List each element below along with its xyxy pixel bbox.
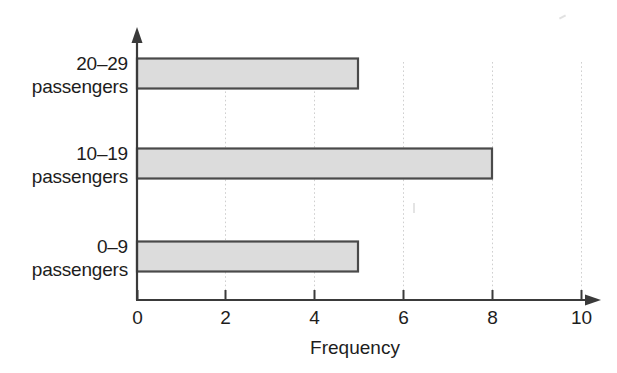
category-label-0-9: 0–9 passengers (0, 235, 128, 281)
category-label-10-19: 10–19 passengers (0, 142, 128, 188)
category-range-10-19: 10–19 (0, 142, 128, 165)
xtick-label-10: 10 (561, 308, 602, 328)
category-label-20-29: 20–29 passengers (0, 52, 128, 98)
category-unit-20-29: passengers (0, 75, 128, 98)
x-axis-ticks (138, 290, 582, 300)
xtick-label-0: 0 (117, 308, 158, 328)
bar-10-19 (137, 149, 492, 179)
bar-0-9 (137, 242, 358, 272)
xtick-label-4: 4 (294, 308, 335, 328)
category-range-0-9: 0–9 (0, 235, 128, 258)
category-unit-10-19: passengers (0, 165, 128, 188)
bar-20-29 (137, 59, 358, 89)
x-axis (136, 295, 601, 306)
xtick-label-8: 8 (472, 308, 513, 328)
xtick-label-6: 6 (383, 308, 424, 328)
frequency-bar-chart: 20–29 passengers 10–19 passengers 0–9 pa… (0, 0, 617, 373)
x-axis-arrowhead (585, 295, 601, 306)
y-axis-arrowhead (132, 27, 143, 43)
xtick-label-2: 2 (205, 308, 246, 328)
x-axis-title: Frequency (255, 337, 455, 359)
category-range-20-29: 20–29 (0, 52, 128, 75)
category-unit-0-9: passengers (0, 258, 128, 281)
scan-speck-middle (413, 203, 415, 213)
